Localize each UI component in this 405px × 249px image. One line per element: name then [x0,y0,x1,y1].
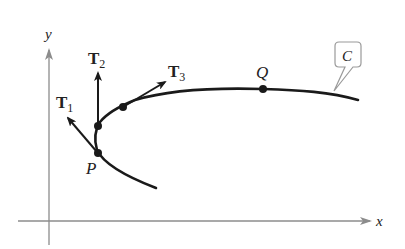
x-axis-label: x [375,213,383,229]
t1-label: T1 [56,93,73,115]
t1-sub: 1 [67,101,73,115]
point-t2-dot [94,122,102,130]
curve-c-label: C [342,48,353,64]
point-t3-dot [119,103,127,111]
t3-base: T [168,62,180,81]
point-q-dot [259,85,267,93]
t1-base: T [56,93,68,112]
t2-base: T [88,49,100,68]
point-p-label: P [85,159,96,178]
curve-diagram: y x P Q T1 T2 T3 C [0,0,405,249]
point-q-label: Q [256,63,268,82]
point-p-dot [94,149,102,157]
curve-c [95,89,358,188]
tangent-vector-t1 [68,118,97,152]
t3-sub: 3 [179,70,185,84]
y-axis-label: y [43,26,52,42]
t3-label: T3 [168,62,185,84]
t2-label: T2 [88,49,105,71]
t2-sub: 2 [99,57,105,71]
